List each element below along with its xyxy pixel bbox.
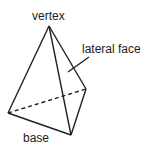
hidden-edge-base-left-right bbox=[8, 89, 86, 113]
edge-base-front-right bbox=[71, 89, 86, 135]
edge-apex-left bbox=[8, 26, 49, 113]
base-label: base bbox=[23, 131, 49, 145]
lateral-face-label: lateral face bbox=[82, 42, 141, 56]
edge-apex-front bbox=[49, 26, 71, 135]
edge-apex-right bbox=[49, 26, 86, 89]
pyramid-diagram: vertex lateral face base bbox=[0, 0, 152, 151]
vertex-label: vertex bbox=[32, 9, 65, 23]
